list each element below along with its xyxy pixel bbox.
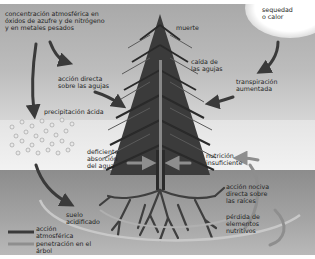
- label-death: muerte: [176, 24, 199, 31]
- label-nutrient-loss: pérdida de elementos nutritivos: [226, 213, 260, 235]
- label-concentration: concentración atmosférica en óxidos de a…: [5, 10, 105, 32]
- arrow-to-soil: [36, 165, 68, 203]
- label-root-action: acción nociva directa sobre las raíces: [226, 183, 269, 205]
- arrow-from-drought: [263, 42, 278, 70]
- arrow-to-needles-action: [50, 42, 66, 62]
- arrow-to-nutrition: [240, 158, 258, 160]
- legend-label-atmospheric: acción atmosférica: [36, 225, 73, 239]
- legend-label-penetration: penetración en el árbol: [36, 240, 91, 254]
- arrow-from-transpiration: [212, 97, 233, 103]
- label-water-absorption: deficiente absorción del agua: [87, 148, 118, 170]
- arrow-to-needles: [95, 92, 120, 104]
- label-acidified-soil: suelo acidificado: [66, 211, 100, 225]
- acid-droplets-icon: [10, 118, 74, 155]
- label-drought: sequedad o calor: [262, 6, 293, 20]
- roots-icon: [100, 188, 224, 240]
- acid-rain-tree-diagram: concentración atmosférica en óxidos de a…: [0, 0, 315, 259]
- label-acid-precipitation: precipitación ácida: [44, 108, 104, 115]
- label-insufficient-nutrition: nutrición insuficiente: [206, 152, 242, 166]
- label-direct-action-needles: acción directa sobre las agujas: [58, 75, 109, 89]
- tree-icon: [104, 14, 216, 190]
- arrow-to-precipitation: [33, 44, 36, 112]
- diagram-artwork: [0, 0, 315, 259]
- label-transpiration: transpiración aumentada: [236, 78, 277, 92]
- label-needle-fall: caída de las agujas: [191, 58, 223, 72]
